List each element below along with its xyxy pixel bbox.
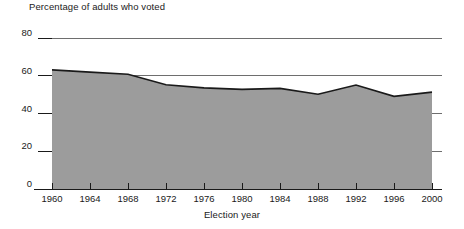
x-tick-label: 1980 xyxy=(222,193,262,204)
x-tick-label: 1984 xyxy=(260,193,300,204)
x-tick-label: 1976 xyxy=(184,193,224,204)
y-tick-label: 20 xyxy=(6,140,32,151)
y-tick-label: 60 xyxy=(6,65,32,76)
x-tick-label: 1972 xyxy=(146,193,186,204)
area-fill xyxy=(52,70,432,189)
x-tick-label: 1988 xyxy=(298,193,338,204)
y-tick-label: 80 xyxy=(6,27,32,38)
x-tick-label: 1992 xyxy=(336,193,376,204)
y-tick-label: 0 xyxy=(6,178,32,189)
x-tick-label: 1964 xyxy=(70,193,110,204)
x-tick-label: 1968 xyxy=(108,193,148,204)
y-axis-ticks xyxy=(38,38,52,189)
voter-turnout-chart: Percentage of adults who voted Election … xyxy=(0,0,464,229)
x-tick-label: 1960 xyxy=(32,193,72,204)
y-tick-label: 40 xyxy=(6,103,32,114)
x-tick-label: 1996 xyxy=(374,193,414,204)
x-tick-label: 2000 xyxy=(412,193,452,204)
